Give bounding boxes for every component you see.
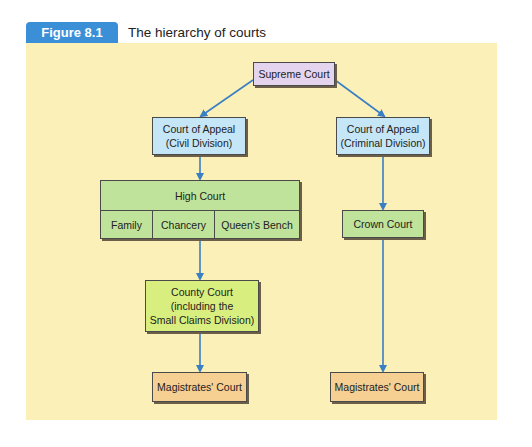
node-label: Magistrates' Court <box>335 380 420 394</box>
node-county-court: County Court (including the Small Claims… <box>145 280 259 332</box>
node-label: Crown Court <box>354 217 413 231</box>
node-sublabel: (Criminal Division) <box>340 136 425 150</box>
node-magistrates-court-criminal: Magistrates' Court <box>330 372 424 402</box>
node-court-of-appeal-civil: Court of Appeal (Civil Division) <box>152 117 246 155</box>
node-high-court: High Court Family Chancery Queen's Bench <box>100 180 300 239</box>
node-sublabel: (Civil Division) <box>166 136 233 150</box>
node-court-of-appeal-criminal: Court of Appeal (Criminal Division) <box>336 117 430 155</box>
arrow-supreme-to-civil <box>201 80 253 116</box>
node-sublabel: (including the <box>171 299 233 313</box>
node-label: Magistrates' Court <box>157 380 242 394</box>
node-supreme-court: Supreme Court <box>253 62 335 86</box>
node-crown-court: Crown Court <box>342 210 424 238</box>
arrow-supreme-to-criminal <box>335 80 384 116</box>
node-label: Court of Appeal <box>163 122 235 136</box>
high-court-division-queens-bench: Queen's Bench <box>215 210 299 239</box>
node-sublabel: Small Claims Division) <box>150 313 254 327</box>
node-label: Court of Appeal <box>347 122 419 136</box>
high-court-division-chancery: Chancery <box>153 210 215 239</box>
node-magistrates-court-civil: Magistrates' Court <box>152 372 247 402</box>
node-label: County Court <box>171 285 233 299</box>
high-court-title: High Court <box>101 181 299 210</box>
high-court-division-family: Family <box>101 210 153 239</box>
node-label: Supreme Court <box>258 67 329 81</box>
